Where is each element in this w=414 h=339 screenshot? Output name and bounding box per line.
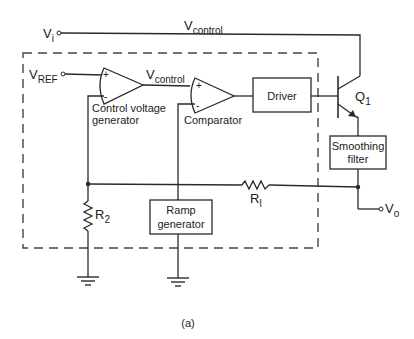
control-voltage-generator-opamp: + - (100, 68, 143, 104)
svg-text:Vi: Vi (43, 26, 54, 44)
svg-text:VREF: VREF (29, 67, 58, 85)
feedback-wire-right (269, 185, 358, 187)
vref-terminal: VREF (29, 67, 65, 85)
svg-text:-: - (104, 91, 107, 102)
ramp-generator-label-2: generator (157, 218, 204, 230)
comparator-label: Comparator (184, 114, 242, 126)
svg-text:+: + (196, 80, 202, 91)
vcontrol-mid-label: Vcontrol (146, 67, 185, 85)
feedback-wire-left (88, 184, 242, 185)
svg-text:Vo: Vo (385, 201, 400, 219)
vo-terminal: Vo (379, 201, 400, 219)
feedback-junction (86, 182, 90, 186)
svg-text:-: - (196, 100, 199, 111)
vcontrol-mid-wire (143, 85, 190, 86)
comparator-opamp: + - (191, 78, 234, 113)
control-voltage-generator-label: Control voltage (92, 102, 166, 114)
control-voltage-generator-label-2: generator (92, 114, 139, 126)
r2-resistor (84, 201, 92, 231)
driver-label: Driver (267, 90, 297, 102)
ramp-generator-label: Ramp (166, 204, 195, 216)
ground-icon (77, 277, 99, 285)
q1-label: Q1 (355, 89, 371, 107)
vi-terminal: Vi (43, 26, 61, 44)
vref-wire (65, 74, 103, 75)
circuit-diagram: Vi Vcontrol VREF + - Control voltage gen… (0, 0, 414, 339)
svg-text:+: + (103, 69, 109, 80)
smoothing-filter-label: Smoothing (332, 140, 385, 152)
figure-caption: (a) (181, 317, 194, 329)
smoothing-filter-label-2: filter (348, 153, 369, 165)
ground-icon (167, 278, 189, 286)
r1-resistor (242, 181, 269, 189)
r1-label: Rl (250, 191, 262, 209)
r2-label: R2 (95, 207, 110, 225)
